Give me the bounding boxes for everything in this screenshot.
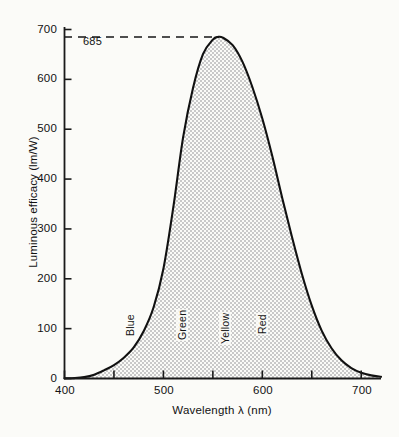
annotation-685-label: 685 [83,35,102,47]
x-axis-title: Wavelength λ (nm) [64,404,380,416]
y-axis-ticks [65,30,72,379]
y-tick-label-0: 0 [24,372,57,384]
y-axis-title: Luminous efficacy (lm/W) [27,117,39,287]
y-tick-label-100: 100 [24,322,57,334]
x-tick-label-600: 600 [244,384,282,396]
band-label-blue: Blue [124,313,136,337]
figure-container: 700 600 500 400 300 200 100 0 400 500 60… [0,0,399,437]
y-tick-label-700: 700 [24,23,57,35]
band-label-red: Red [256,313,268,335]
x-tick-label-700: 700 [343,384,381,396]
x-tick-label-500: 500 [145,384,183,396]
band-label-green: Green [176,309,188,341]
chart-plot-area [0,0,399,437]
x-tick-label-400: 400 [46,384,84,396]
y-tick-label-600: 600 [24,72,57,84]
band-label-yellow: Yellow [219,312,231,345]
